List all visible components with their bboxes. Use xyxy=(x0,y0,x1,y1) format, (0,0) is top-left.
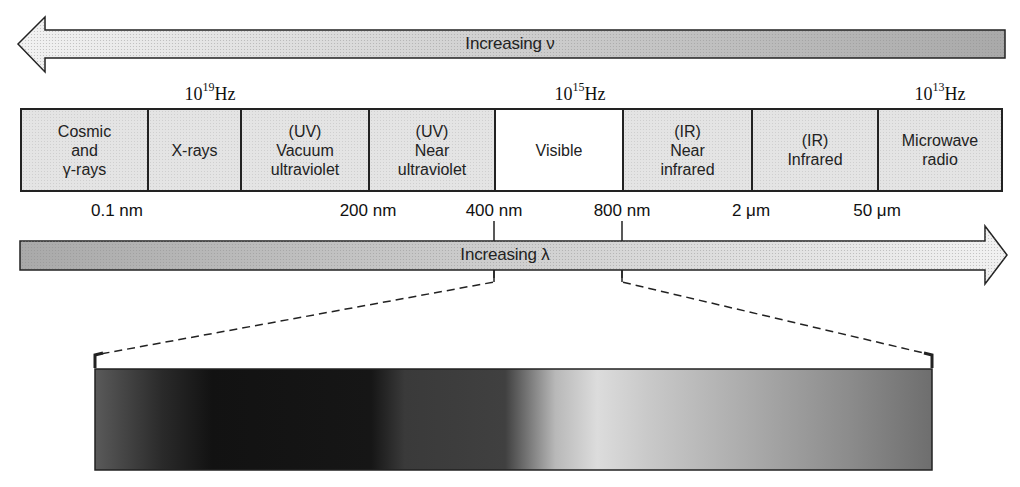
wavelength-arrow-label: Increasing λ xyxy=(460,245,549,265)
wavelength-label-400nm: 400 nm xyxy=(466,201,523,221)
zoom-line-left xyxy=(95,270,494,368)
band-microwave-radio: Microwave radio xyxy=(879,110,1001,190)
zoom-line-right xyxy=(622,270,932,368)
frequency-label-1e15: 1015Hz xyxy=(555,84,606,105)
band-vacuum-ultraviolet: (UV) Vacuum ultraviolet xyxy=(242,110,370,190)
wavelength-label-800nm: 800 nm xyxy=(594,201,651,221)
band-infrared: (IR) Infrared xyxy=(753,110,879,190)
frequency-label-1e19: 1019Hz xyxy=(185,84,236,105)
frequency-arrow-label: Increasing ν xyxy=(465,34,554,54)
band-x-rays: X-rays xyxy=(149,110,242,190)
wavelength-label-200nm: 200 nm xyxy=(340,201,397,221)
diagram-graphics xyxy=(0,0,1020,487)
band-near-ultraviolet: (UV) Near ultraviolet xyxy=(370,110,496,190)
wavelength-label-2um: 2 μm xyxy=(732,201,770,221)
band-cosmic-gamma: Cosmic and γ-rays xyxy=(22,110,149,190)
band-near-infrared: (IR) Near infrared xyxy=(624,110,753,190)
visible-spectrum-bar xyxy=(95,369,932,470)
wavelength-label-50um: 50 μm xyxy=(853,201,901,221)
band-visible: Visible xyxy=(496,110,624,190)
spectrum-band-row: Cosmic and γ-rays X-rays (UV) Vacuum ult… xyxy=(20,108,1003,192)
frequency-label-1e13: 1013Hz xyxy=(915,84,966,105)
wavelength-label-0.1nm: 0.1 nm xyxy=(91,201,143,221)
